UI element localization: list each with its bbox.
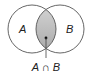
intersection-label: A ∩ B	[31, 61, 60, 73]
set-a-label: A	[18, 23, 26, 35]
set-b-label: B	[66, 23, 73, 35]
venn-diagram: A B A ∩ B	[0, 0, 90, 77]
